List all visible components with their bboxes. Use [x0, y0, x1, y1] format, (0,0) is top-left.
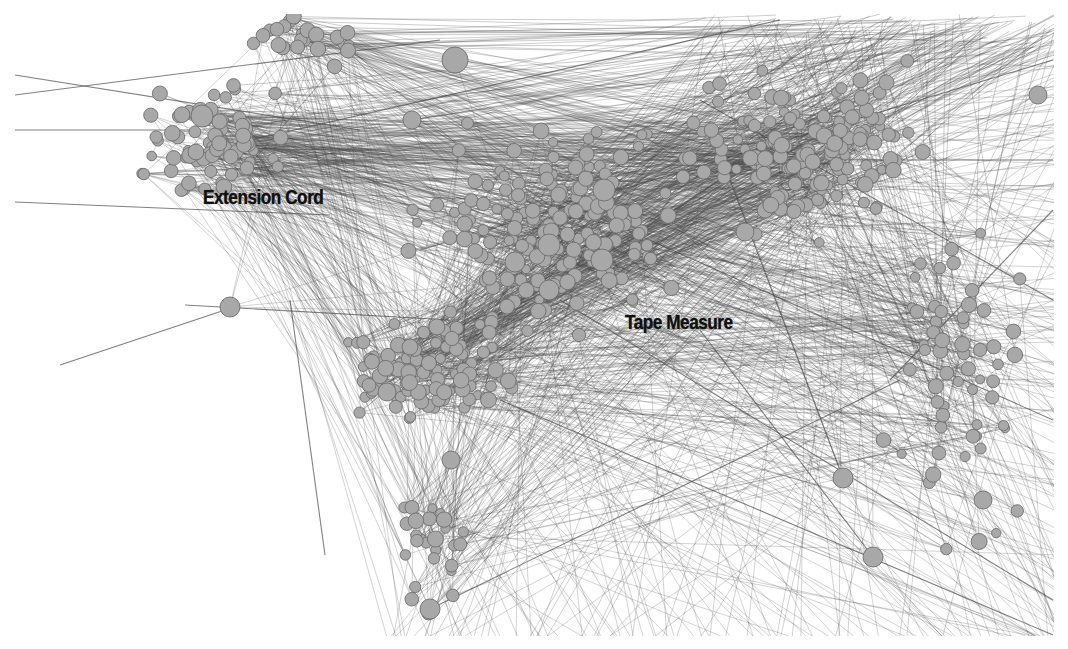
graph-node — [628, 248, 640, 260]
graph-node — [987, 340, 1001, 354]
graph-node — [757, 151, 773, 167]
graph-node — [757, 141, 767, 151]
graph-node — [628, 204, 643, 219]
graph-node — [830, 158, 844, 172]
graph-node — [748, 87, 760, 99]
graph-node — [609, 218, 624, 233]
graph-node — [436, 512, 451, 527]
graph-node — [270, 22, 284, 36]
graph-node — [286, 9, 301, 24]
graph-node — [676, 170, 689, 183]
graph-node — [936, 408, 950, 422]
graph-node — [551, 187, 566, 202]
graph-node — [713, 77, 727, 91]
graph-node — [405, 592, 419, 606]
graph-node — [454, 538, 467, 551]
graph-node — [593, 179, 615, 201]
graph-node — [932, 446, 946, 460]
graph-node — [273, 130, 288, 145]
graph-node — [787, 204, 801, 218]
graph-node — [863, 547, 883, 567]
graph-node — [478, 225, 489, 236]
graph-node — [482, 271, 496, 285]
graph-node — [428, 553, 440, 565]
graph-node — [660, 188, 671, 199]
graph-node — [971, 534, 987, 550]
graph-node — [664, 280, 679, 295]
graph-node — [986, 391, 999, 404]
graph-node — [763, 197, 779, 213]
graph-node — [579, 147, 594, 162]
graph-node — [901, 55, 914, 68]
graph-node — [405, 412, 416, 423]
graph-node — [484, 236, 497, 249]
graph-node — [269, 87, 282, 100]
graph-node — [540, 172, 554, 186]
graph-node — [867, 135, 882, 150]
graph-node — [522, 325, 533, 336]
graph-node — [940, 366, 954, 380]
graph-node — [378, 360, 394, 376]
graph-node — [857, 177, 873, 193]
graph-node — [764, 116, 776, 128]
graph-node — [486, 381, 497, 392]
graph-node — [591, 127, 602, 138]
label-extension-cord: Extension Cord — [203, 185, 323, 209]
graph-node — [166, 151, 181, 166]
graph-node — [525, 203, 540, 218]
graph-node — [410, 581, 421, 592]
graph-node — [505, 252, 525, 272]
graph-node — [421, 356, 436, 371]
graph-node — [236, 128, 251, 143]
graph-node — [400, 550, 411, 561]
graph-node — [882, 128, 895, 141]
graph-node — [427, 531, 443, 547]
graph-node — [972, 420, 982, 430]
graph-node — [910, 305, 924, 319]
graph-node — [188, 144, 204, 160]
graph-node — [499, 171, 509, 181]
graph-node — [411, 534, 424, 547]
graph-node — [633, 227, 646, 240]
graph-node — [437, 385, 452, 400]
graph-node — [627, 294, 638, 305]
graph-node — [504, 236, 514, 246]
graph-node — [513, 177, 526, 190]
graph-node — [413, 218, 422, 227]
graph-node — [500, 272, 515, 287]
graph-node — [189, 126, 201, 138]
graph-node — [518, 283, 534, 299]
graph-node — [833, 468, 853, 488]
graph-node — [365, 354, 380, 369]
graph-node — [500, 373, 516, 389]
graph-node — [205, 165, 217, 177]
graph-node — [961, 362, 975, 376]
graph-node — [786, 159, 801, 174]
graph-node — [879, 75, 894, 90]
graph-node — [224, 149, 239, 164]
graph-node — [309, 27, 324, 42]
graph-node — [1029, 86, 1047, 104]
graph-node — [481, 392, 497, 408]
graph-node — [405, 501, 419, 515]
graph-node — [220, 297, 240, 317]
graph-node — [465, 194, 478, 207]
graph-node — [853, 73, 868, 88]
graph-node — [340, 26, 355, 41]
graph-node — [853, 132, 867, 146]
graph-node — [445, 559, 458, 572]
graph-node — [445, 331, 459, 345]
graph-node — [227, 79, 241, 93]
graph-node — [208, 89, 220, 101]
graph-node — [788, 177, 802, 191]
graph-node — [402, 339, 418, 355]
graph-node — [961, 297, 976, 312]
graph-node — [220, 92, 232, 104]
graph-node — [613, 149, 628, 164]
graph-node — [897, 449, 906, 458]
graph-node — [147, 151, 157, 161]
network-graph — [0, 0, 1068, 649]
graph-node — [566, 242, 581, 257]
graph-node — [831, 190, 843, 202]
graph-node — [817, 110, 830, 123]
